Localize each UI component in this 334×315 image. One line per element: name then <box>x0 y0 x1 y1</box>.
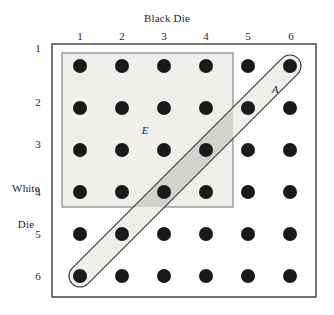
outcome-dot-6-2 <box>283 101 297 115</box>
outcome-dot-2-2 <box>115 101 129 115</box>
outcome-dot-5-4 <box>241 185 255 199</box>
outcome-dot-1-4 <box>73 185 87 199</box>
outcome-dot-6-6 <box>283 269 297 283</box>
outcome-dot-6-3 <box>283 143 297 157</box>
outcome-dot-4-5 <box>199 227 213 241</box>
outcome-dot-6-5 <box>283 227 297 241</box>
diagram-canvas <box>0 0 334 315</box>
event-a-label: A <box>268 83 282 95</box>
outcome-dot-2-4 <box>115 185 129 199</box>
outcome-dot-2-6 <box>115 269 129 283</box>
outcome-dot-3-5 <box>157 227 171 241</box>
outcome-dot-5-6 <box>241 269 255 283</box>
outcome-dot-3-6 <box>157 269 171 283</box>
outcome-dot-3-1 <box>157 59 171 73</box>
event-e-label: E <box>138 124 152 136</box>
outcome-dot-5-5 <box>241 227 255 241</box>
outcome-dot-4-2 <box>199 101 213 115</box>
outcome-dot-6-1 <box>283 59 297 73</box>
outcome-dot-1-3 <box>73 143 87 157</box>
outcome-dot-4-1 <box>199 59 213 73</box>
outcome-dot-6-4 <box>283 185 297 199</box>
outcome-dot-5-2 <box>241 101 255 115</box>
outcome-dot-2-3 <box>115 143 129 157</box>
outcome-dot-5-1 <box>241 59 255 73</box>
outcome-dot-1-1 <box>73 59 87 73</box>
outcome-dot-5-3 <box>241 143 255 157</box>
outcome-dot-1-5 <box>73 227 87 241</box>
outcome-dot-1-2 <box>73 101 87 115</box>
outcome-dot-1-6 <box>73 269 87 283</box>
outcome-dot-4-6 <box>199 269 213 283</box>
outcome-dot-3-2 <box>157 101 171 115</box>
dice-sample-space-figure: Black Die White Die 1 2 3 4 5 6 1 2 3 4 … <box>0 0 334 315</box>
outcome-dot-4-4 <box>199 185 213 199</box>
outcome-dot-3-4 <box>157 185 171 199</box>
outcome-dot-4-3 <box>199 143 213 157</box>
outcome-dot-3-3 <box>157 143 171 157</box>
outcome-dot-2-5 <box>115 227 129 241</box>
outcome-dot-2-1 <box>115 59 129 73</box>
